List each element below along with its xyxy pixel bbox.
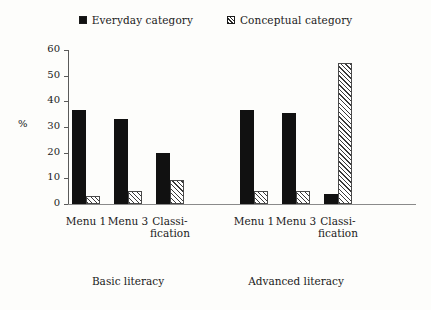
y-tick-label: 50 (47, 69, 60, 80)
y-tick-label: 30 (47, 120, 60, 131)
legend-item-everyday: Everyday category (79, 14, 193, 26)
y-tick-label: 0 (54, 197, 60, 208)
x-category-label-line: fication (133, 227, 207, 239)
bar-everyday (114, 119, 128, 204)
y-axis-title: % (18, 118, 28, 129)
bar-everyday (156, 153, 170, 204)
y-tick-60: 60 (64, 50, 68, 51)
y-tick-20: 20 (64, 153, 68, 154)
legend-item-conceptual: Conceptual category (227, 14, 352, 26)
bar-conceptual (296, 191, 310, 204)
y-tick-10: 10 (64, 178, 68, 179)
bar-chart: Everyday category Conceptual category 01… (0, 0, 431, 310)
plot-area: 0102030405060 (68, 50, 416, 205)
x-category-label-line: fication (301, 227, 375, 239)
y-tick-0: 0 (64, 204, 68, 205)
solid-square-icon (79, 16, 87, 24)
x-category-label: Classi-fication (133, 215, 207, 239)
bar-conceptual (254, 191, 268, 204)
x-axis-line (68, 204, 416, 205)
y-tick-label: 10 (47, 171, 60, 182)
hatched-square-icon (227, 16, 235, 24)
bar-everyday (324, 194, 338, 204)
bar-conceptual (86, 196, 100, 204)
chart-legend: Everyday category Conceptual category (0, 14, 431, 26)
legend-label-conceptual: Conceptual category (240, 14, 352, 26)
y-tick-30: 30 (64, 127, 68, 128)
x-category-label-line: Classi- (301, 215, 375, 227)
group-label: Advanced literacy (216, 275, 376, 287)
group-label: Basic literacy (48, 275, 208, 287)
legend-label-everyday: Everyday category (92, 14, 193, 26)
x-category-label: Classi-fication (301, 215, 375, 239)
x-category-label-line: Classi- (133, 215, 207, 227)
y-tick-40: 40 (64, 101, 68, 102)
y-tick-label: 20 (47, 146, 60, 157)
y-tick-50: 50 (64, 76, 68, 77)
bar-conceptual (170, 180, 184, 204)
bar-everyday (72, 110, 86, 204)
bar-series-container (69, 50, 416, 204)
bar-conceptual (128, 191, 142, 204)
bar-conceptual (338, 63, 352, 204)
y-tick-label: 40 (47, 94, 60, 105)
bar-everyday (240, 110, 254, 204)
y-tick-label: 60 (47, 43, 60, 54)
bar-everyday (282, 113, 296, 204)
